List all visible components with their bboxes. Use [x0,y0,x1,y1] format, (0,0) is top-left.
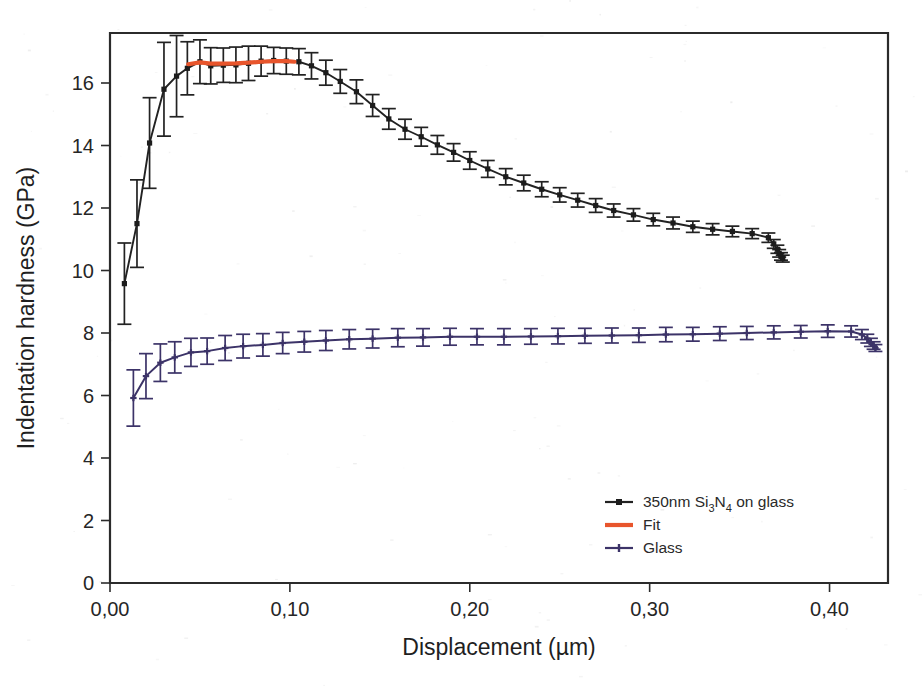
series-line-fit [188,61,294,64]
y-tick-label: 6 [83,385,94,407]
y-tick-label: 14 [72,135,94,157]
x-tick-label: 0,30 [630,598,669,620]
x-tick-label: 0,10 [270,598,309,620]
chart-figure: 0,000,100,200,300,400246810121416 350nm … [0,0,922,689]
x-tick-label: 0,20 [450,598,489,620]
y-tick-label: 10 [72,260,94,282]
error-bars [126,325,882,426]
legend-label: Glass [643,539,683,556]
data-markers [122,58,786,286]
x-tick-label: 0,00 [91,598,130,620]
error-bars [117,36,789,325]
chart-canvas: 0,000,100,200,300,400246810121416 350nm … [0,0,922,689]
x-tick-label: 0,40 [810,598,849,620]
y-tick-label: 2 [83,510,94,532]
legend-item-glass[interactable]: Glass [605,539,683,556]
y-tick-label: 8 [83,322,94,344]
chart-legend[interactable]: 350nm Si3N4 on glassFitGlass [605,493,794,556]
x-axis-title: Displacement (µm) [402,634,595,660]
axis-tick-labels: 0,000,100,200,300,400246810121416 [72,72,849,620]
y-tick-label: 0 [83,572,94,594]
legend-label: Fit [643,516,661,533]
y-tick-label: 16 [72,72,94,94]
series-line-film [124,61,782,284]
y-tick-label: 12 [72,197,94,219]
y-axis-title: Indentation hardness (GPa) [13,167,39,450]
legend-item-350nm-si3n4-on-glass[interactable]: 350nm Si3N4 on glass [605,493,794,514]
legend-label: 350nm Si3N4 on glass [643,493,794,514]
legend-item-fit[interactable]: Fit [605,516,661,533]
y-tick-label: 4 [83,447,94,469]
data-series [117,36,882,427]
